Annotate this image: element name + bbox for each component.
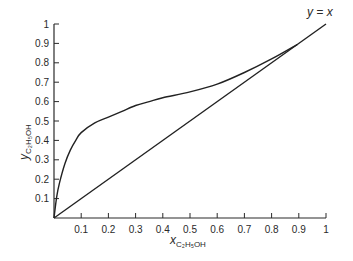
series — [54, 24, 326, 218]
x-tick-label: 0.5 — [183, 224, 197, 235]
y-tick-label: 1 — [43, 19, 49, 30]
y-ticks: 0.10.20.30.40.50.60.70.80.91 — [35, 19, 59, 205]
x-tick-label: 0.9 — [292, 224, 306, 235]
y-tick-label: 0.4 — [35, 135, 49, 146]
y-axis-label: yC₂H₅OH — [17, 124, 33, 161]
x-ticks: 0.10.20.30.40.50.60.70.80.91 — [74, 213, 329, 235]
diagonal-line — [54, 24, 326, 218]
y-tick-label: 0.2 — [35, 174, 49, 185]
y-tick-label: 0.8 — [35, 57, 49, 68]
x-tick-label: 0.6 — [210, 224, 224, 235]
y-tick-label: 0.6 — [35, 96, 49, 107]
y-tick-label: 0.7 — [35, 77, 49, 88]
y-tick-label: 0.3 — [35, 154, 49, 165]
y-tick-label: 0.1 — [35, 193, 49, 204]
x-tick-label: 0.4 — [156, 224, 170, 235]
x-tick-label: 1 — [323, 224, 329, 235]
x-tick-label: 0.3 — [129, 224, 143, 235]
x-tick-label: 0.1 — [74, 224, 88, 235]
y-tick-label: 0.5 — [35, 116, 49, 127]
x-axis-label: xC₂H₅OH — [169, 233, 206, 249]
y-tick-label: 0.9 — [35, 38, 49, 49]
x-tick-label: 0.8 — [265, 224, 279, 235]
diagonal-annotation: y = x — [306, 5, 334, 19]
x-tick-label: 0.7 — [237, 224, 251, 235]
x-tick-label: 0.2 — [101, 224, 115, 235]
vle-chart: 0.10.20.30.40.50.60.70.80.91 0.10.20.30.… — [0, 0, 353, 261]
